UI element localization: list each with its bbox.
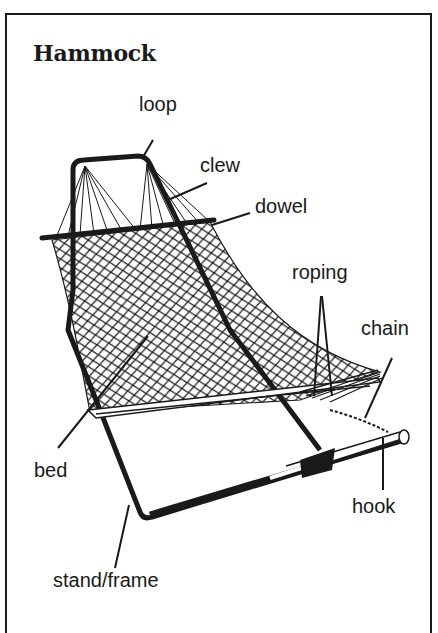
label-chain: chain xyxy=(361,318,409,338)
label-bed: bed xyxy=(34,460,67,480)
stand-frame-leader xyxy=(115,505,129,568)
chain-leader xyxy=(365,358,392,418)
loop-leader xyxy=(143,140,153,157)
dowel-leader xyxy=(212,213,250,225)
label-stand-frame: stand/frame xyxy=(53,570,159,590)
label-loop: loop xyxy=(139,94,177,114)
label-roping: roping xyxy=(292,262,348,282)
label-clew: clew xyxy=(200,155,240,175)
label-hook: hook xyxy=(352,496,395,516)
label-dowel: dowel xyxy=(255,196,307,216)
chain xyxy=(330,410,388,432)
clew-leader xyxy=(168,183,207,200)
